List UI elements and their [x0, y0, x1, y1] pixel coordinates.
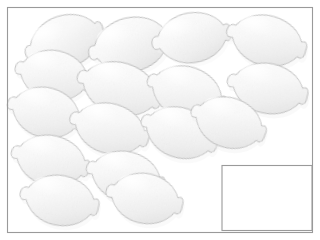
lemons-illustration	[0, 0, 320, 240]
empty-label-box	[222, 166, 312, 231]
illustration-stage: Lemons Pale monochrome line illustration…	[0, 0, 320, 240]
